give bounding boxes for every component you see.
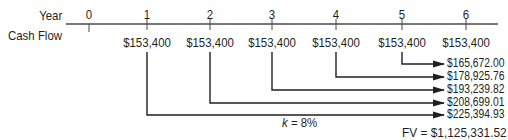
arrow-year1 [147, 52, 444, 115]
year-6: 6 [463, 8, 469, 22]
year-0: 0 [86, 8, 92, 22]
arrow-year3 [272, 52, 444, 90]
arrow-year5 [402, 52, 444, 64]
cashflow-label: Cash Flow [8, 29, 62, 43]
cashflow-6: $153,400 [442, 36, 490, 50]
cashflow-4: $153,400 [312, 36, 360, 50]
year-4: 4 [333, 8, 339, 22]
year-label: Year [39, 9, 62, 23]
interest-rate: k = 8% [282, 116, 317, 130]
fv-from-year-1: $225,394.93 [447, 108, 504, 121]
timeline-diagram [0, 0, 508, 140]
cashflow-5: $153,400 [378, 36, 426, 50]
year-3: 3 [269, 8, 275, 22]
year-2: 2 [207, 8, 213, 22]
rate-value: = 8% [288, 115, 318, 130]
cashflow-2: $153,400 [186, 36, 234, 50]
cashflow-3: $153,400 [248, 36, 296, 50]
future-value-total: FV = $1,125,331.52 [402, 126, 507, 140]
year-1: 1 [144, 8, 150, 22]
cashflow-1: $153,400 [123, 36, 171, 50]
year-5: 5 [399, 8, 405, 22]
